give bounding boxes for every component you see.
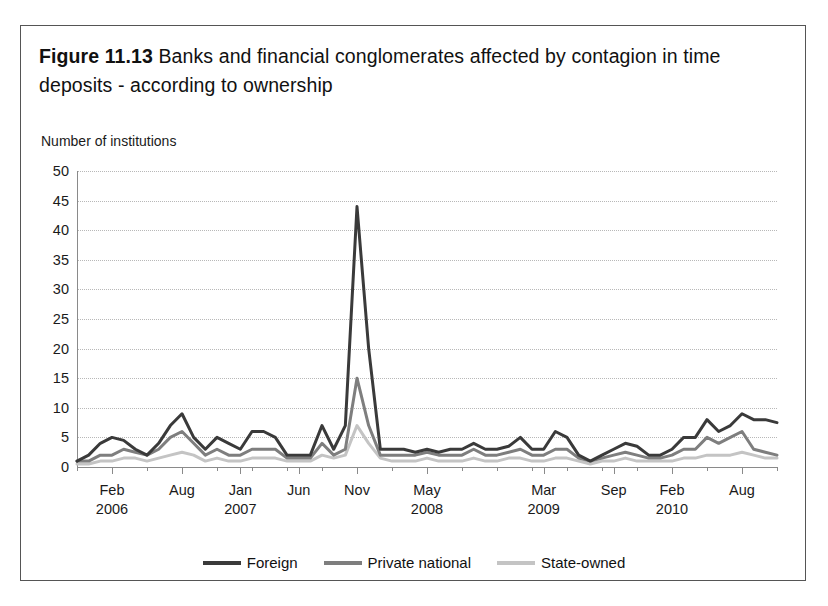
- x-tick-month: Aug: [729, 482, 755, 498]
- x-tick-month: Aug: [169, 482, 195, 498]
- x-axis-tick-label: May2008: [411, 481, 443, 519]
- x-axis-minor-tick: [77, 467, 78, 471]
- x-tick-month: May: [413, 482, 440, 498]
- legend-swatch-icon: [497, 561, 535, 565]
- x-axis-minor-tick: [532, 467, 533, 471]
- legend-item-foreign[interactable]: Foreign: [203, 554, 298, 571]
- x-axis-minor-tick: [147, 467, 148, 471]
- x-axis-tick-label: Jun: [287, 481, 310, 500]
- x-axis-minor-tick: [707, 467, 708, 471]
- y-axis-tick-label: 45: [39, 193, 69, 208]
- y-axis-tick-labels: 05101520253035404550: [35, 171, 69, 467]
- x-axis-minor-tick: [287, 467, 288, 471]
- y-axis-tick-label: 50: [39, 164, 69, 179]
- x-axis-tick: [182, 467, 183, 474]
- x-axis-tick: [614, 467, 615, 474]
- x-axis-minor-tick: [637, 467, 638, 471]
- x-axis-tick: [299, 467, 300, 474]
- x-axis-minor-tick: [602, 467, 603, 471]
- x-axis-tick-label: Jan2007: [224, 481, 256, 519]
- x-axis-tick-label: Aug: [729, 481, 755, 500]
- y-axis-tick-label: 35: [39, 253, 69, 268]
- x-axis-tick-label: Nov: [344, 481, 370, 500]
- y-axis-tick-label: 15: [39, 371, 69, 386]
- x-tick-year: 2009: [528, 500, 560, 519]
- x-tick-month: Jan: [229, 482, 252, 498]
- x-axis-tick-label: Feb2006: [96, 481, 128, 519]
- chart-legend: ForeignPrivate nationalState-owned: [21, 554, 807, 571]
- x-tick-month: Feb: [99, 482, 124, 498]
- x-axis-tick: [112, 467, 113, 474]
- y-axis-tick-label: 20: [39, 341, 69, 356]
- chart-plot: 05101520253035404550 Feb2006AugJan2007Ju…: [21, 26, 807, 582]
- x-axis-tick: [427, 467, 428, 474]
- legend-label: Foreign: [247, 554, 298, 571]
- x-tick-month: Nov: [344, 482, 370, 498]
- y-axis-tick-label: 25: [39, 312, 69, 327]
- x-axis-tick-label: Aug: [169, 481, 195, 500]
- x-axis-minor-tick: [777, 467, 778, 471]
- x-axis-minor-tick: [217, 467, 218, 471]
- x-axis-minor-tick: [322, 467, 323, 471]
- x-tick-year: 2008: [411, 500, 443, 519]
- x-tick-year: 2006: [96, 500, 128, 519]
- legend-item-private-national[interactable]: Private national: [324, 554, 471, 571]
- x-tick-year: 2007: [224, 500, 256, 519]
- x-axis-minor-tick: [462, 467, 463, 471]
- x-axis-tick: [240, 467, 241, 474]
- legend-item-state-owned[interactable]: State-owned: [497, 554, 625, 571]
- legend-label: State-owned: [541, 554, 625, 571]
- x-tick-year: 2010: [656, 500, 688, 519]
- x-axis-tick: [672, 467, 673, 474]
- x-tick-month: Feb: [659, 482, 684, 498]
- series-line-foreign: [77, 207, 777, 462]
- x-tick-month: Sep: [601, 482, 627, 498]
- x-axis-tick-label: Sep: [601, 481, 627, 500]
- x-axis-minor-tick: [252, 467, 253, 471]
- x-axis-tick: [742, 467, 743, 474]
- x-axis-minor-tick: [392, 467, 393, 471]
- legend-label: Private national: [368, 554, 471, 571]
- y-axis-tick-label: 5: [39, 430, 69, 445]
- x-tick-month: Jun: [287, 482, 310, 498]
- x-axis-tick: [544, 467, 545, 474]
- y-axis-tick-label: 40: [39, 223, 69, 238]
- y-axis-tick-label: 30: [39, 282, 69, 297]
- x-axis-minor-tick: [497, 467, 498, 471]
- y-axis-tick-label: 0: [39, 460, 69, 475]
- figure-panel: Figure 11.13 Banks and financial conglom…: [20, 25, 806, 581]
- legend-swatch-icon: [203, 561, 241, 565]
- series-lines-group: [77, 171, 777, 467]
- x-axis-minor-tick: [567, 467, 568, 471]
- x-tick-month: Mar: [531, 482, 556, 498]
- x-axis-tick-label: Mar2009: [528, 481, 560, 519]
- x-axis-tick-label: Feb2010: [656, 481, 688, 519]
- x-axis-tick: [357, 467, 358, 474]
- legend-swatch-icon: [324, 561, 362, 565]
- y-axis-tick-label: 10: [39, 401, 69, 416]
